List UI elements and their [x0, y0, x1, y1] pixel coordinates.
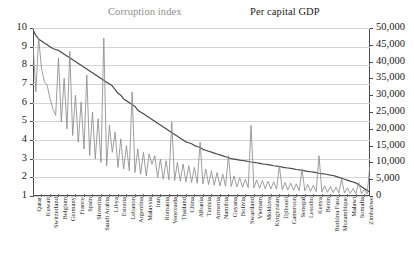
x-axis-tick	[33, 194, 34, 197]
y-axis-right-tick	[370, 129, 373, 130]
x-axis-tick-label: Lesotho	[307, 197, 314, 218]
x-axis-tick	[288, 194, 289, 197]
x-axis-tick-label: Senegal	[299, 197, 306, 218]
y-axis-left-tick-label: 8	[3, 58, 27, 69]
y-axis-right-tick-label: 50,000	[376, 21, 405, 32]
x-axis-tick	[186, 194, 187, 197]
y-axis-right-tick-label: 45,000	[376, 38, 405, 49]
x-axis-tick	[67, 194, 68, 197]
y-axis-left-tick	[30, 103, 33, 104]
x-axis-tick	[356, 194, 357, 197]
x-axis-tick	[305, 194, 306, 197]
x-axis-tick	[92, 194, 93, 197]
y-axis-left-tick	[30, 159, 33, 160]
y-axis-right-tick	[370, 146, 373, 147]
x-axis-tick-label: Armenia	[214, 197, 221, 220]
y-axis-left-tick-label: 6	[3, 96, 27, 107]
x-axis-tick	[143, 194, 144, 197]
x-axis-tick	[135, 194, 136, 197]
x-axis-tick-label: France	[78, 197, 85, 215]
x-axis-tick-label: Thailand	[180, 197, 187, 220]
y-axis-right-tick-label: 20,000	[376, 122, 405, 133]
y-axis-right-tick-label: 0	[376, 189, 381, 200]
y-axis-right-tick-label: 25,000	[376, 105, 405, 116]
x-axis-tick	[254, 194, 255, 197]
x-axis-tick	[126, 194, 127, 197]
x-axis-tick	[296, 194, 297, 197]
y-axis-right-tick	[370, 28, 373, 29]
chart-container: Corruption index Per capital GDP 1098765…	[0, 0, 414, 261]
x-axis-tick-label: Estonia	[120, 197, 127, 217]
x-axis-tick-label: Swaziland	[248, 197, 255, 224]
x-axis-tick	[160, 194, 161, 197]
x-axis-tick	[118, 194, 119, 197]
series-line-per-capital-gdp	[33, 38, 370, 194]
x-axis-tick	[313, 194, 314, 197]
y-axis-right-tick-label: 5,000	[376, 172, 400, 183]
x-axis-tick	[211, 194, 212, 197]
x-axis-tick-label: Spain	[86, 197, 93, 212]
x-axis-tick	[330, 194, 331, 197]
y-axis-right-tick-label: 15,000	[376, 139, 405, 150]
y-axis-left-tick-label: 9	[3, 40, 27, 51]
x-axis-tick	[194, 194, 195, 197]
y-axis-right-tick-label: 30,000	[376, 88, 405, 99]
x-axis-tick-label: Guyana	[231, 197, 238, 217]
y-axis-left-tick	[30, 121, 33, 122]
x-axis-tick-label: Namibia	[222, 197, 229, 219]
x-axis-tick-label: Germany	[69, 197, 76, 221]
x-axis-tick-label: Burkina Faso	[333, 197, 340, 232]
legend-item-per-capital-gdp: Per capital GDP	[250, 6, 320, 17]
y-axis-right-tick	[370, 162, 373, 163]
x-axis-tick-label: Albania	[197, 197, 204, 218]
chart-legend: Corruption index Per capital GDP	[0, 6, 414, 22]
x-axis-tick	[279, 194, 280, 197]
x-axis-tick-label: Slovenia	[95, 197, 102, 220]
x-axis-tick	[75, 194, 76, 197]
x-axis-tick	[50, 194, 51, 197]
y-axis-left-tick-label: 10	[3, 21, 27, 32]
y-axis-right-tick	[370, 179, 373, 180]
x-axis-tick-label: Moldova	[265, 197, 272, 220]
x-axis-tick-label: Somalia	[358, 197, 365, 218]
y-axis-right-tick	[370, 112, 373, 113]
x-axis-tick	[84, 194, 85, 197]
x-axis-tick	[228, 194, 229, 197]
x-axis-tick-label: Vietnam	[256, 197, 263, 219]
y-axis-right-tick	[370, 78, 373, 79]
x-axis-tick	[41, 194, 42, 197]
x-axis-tick	[271, 194, 272, 197]
y-axis-left-tick-label: 2	[3, 170, 27, 181]
x-axis-tick-label: Malaysia	[146, 197, 153, 221]
x-axis-tick	[152, 194, 153, 197]
x-axis-tick-label: Qatar	[35, 197, 42, 211]
legend-item-corruption-index: Corruption index	[108, 6, 182, 17]
x-axis-tick-label: Djibouti	[282, 197, 289, 219]
x-axis-tick-label: Saudi Arabia	[103, 197, 110, 231]
y-axis-left-tick-label: 5	[3, 114, 27, 125]
x-axis-tick	[109, 194, 110, 197]
x-axis-tick	[364, 194, 365, 197]
y-axis-right-tick-label: 10,000	[376, 155, 405, 166]
y-axis-left-tick-label: 3	[3, 152, 27, 163]
x-axis-tick-label: Belgium	[61, 197, 68, 219]
y-axis-left-tick	[30, 84, 33, 85]
x-axis-tick	[169, 194, 170, 197]
x-axis-tick-label: Venezuela	[171, 197, 178, 224]
y-axis-left-tick	[30, 177, 33, 178]
y-axis-right-tick	[370, 45, 373, 46]
x-axis-tick-label: Libya	[112, 197, 119, 212]
y-axis-left-tick	[30, 140, 33, 141]
x-axis-tick	[339, 194, 340, 197]
x-axis-tick-label: Kuwait	[44, 197, 51, 216]
y-axis-right-tick	[370, 62, 373, 63]
y-axis-right-tick-label: 40,000	[376, 55, 405, 66]
y-axis-left-tick-label: 1	[3, 189, 27, 200]
x-axis-tick	[322, 194, 323, 197]
x-axis-tick-label: Iran	[154, 197, 161, 208]
x-axis-tick	[262, 194, 263, 197]
x-axis-tick-label: Benin	[324, 197, 331, 213]
series-lines	[33, 28, 370, 196]
y-axis-left-tick	[30, 47, 33, 48]
y-axis-left-tick-label: 4	[3, 133, 27, 144]
